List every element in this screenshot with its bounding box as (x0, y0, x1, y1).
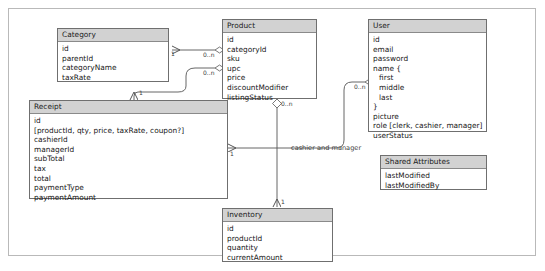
field-receipt-total: total (34, 174, 227, 184)
field-shared-lastmodifiedby: lastModifiedBy (385, 181, 486, 191)
field-user-role: role [clerk, cashier, manager] (373, 121, 486, 131)
entity-shared-attributes[interactable]: Shared Attributes lastModified lastModif… (380, 155, 487, 190)
entity-shared-attributes-title: Shared Attributes (381, 156, 486, 169)
field-receipt-paymentamount: paymentAmount (34, 193, 227, 203)
entity-user-title: User (369, 20, 486, 33)
entity-user[interactable]: User id email password name { first midd… (368, 19, 487, 132)
multiplicity-receipt-right: 1 (230, 150, 234, 157)
entity-category-fields: id parentId categoryName taxRate (58, 42, 168, 85)
entity-product[interactable]: Product id categoryId sku upc price disc… (222, 19, 317, 99)
field-user-last: last (373, 93, 486, 103)
field-user-email: email (373, 45, 486, 55)
relationship-label-cashier-and-manager: cashier and manager (291, 144, 361, 152)
field-receipt-cashierid: cashierId (34, 135, 227, 145)
entity-product-fields: id categoryId sku upc price discountModi… (223, 33, 316, 105)
entity-product-title: Product (223, 20, 316, 33)
relationship-product-inventory (273, 99, 282, 207)
field-product-upc: upc (227, 64, 316, 74)
field-shared-lastmodified: lastModified (385, 171, 486, 181)
field-product-categoryid: categoryId (227, 45, 316, 55)
entity-receipt-title: Receipt (30, 101, 227, 114)
relationship-product-category (172, 47, 224, 53)
field-user-first: first (373, 73, 486, 83)
field-receipt-tax: tax (34, 164, 227, 174)
entity-inventory-fields: id productId quantity currentAmount (223, 222, 332, 265)
field-inventory-quantity: quantity (227, 243, 332, 253)
multiplicity-category-side: 1 (171, 50, 175, 57)
field-category-taxrate: taxRate (62, 73, 168, 83)
diagram-canvas: Category id parentId categoryName taxRat… (0, 0, 545, 271)
multiplicity-product-to-inventory: 0..n (281, 100, 292, 107)
field-category-parentid: parentId (62, 54, 168, 64)
field-user-name-open: name { (373, 64, 486, 74)
field-product-sku: sku (227, 54, 316, 64)
field-product-discountmodifier: discountModifier (227, 83, 316, 93)
field-receipt-managerid: managerId (34, 145, 227, 155)
entity-receipt[interactable]: Receipt id [productId, qty, price, taxRa… (29, 100, 228, 199)
entity-inventory[interactable]: Inventory id productId quantity currentA… (222, 208, 333, 262)
multiplicity-inventory-side: 1 (281, 198, 285, 205)
field-category-id: id (62, 44, 168, 54)
multiplicity-receipt-top: 1 (139, 89, 143, 96)
field-inventory-id: id (227, 224, 332, 234)
multiplicity-product-to-category: 0..n (203, 51, 214, 58)
field-product-id: id (227, 35, 316, 45)
entity-inventory-title: Inventory (223, 209, 332, 222)
entity-receipt-fields: id [productId, qty, price, taxRate, coup… (30, 114, 227, 205)
field-receipt-id: id (34, 116, 227, 126)
field-user-id: id (373, 35, 486, 45)
field-receipt-paymenttype: paymentType (34, 183, 227, 193)
field-product-price: price (227, 73, 316, 83)
field-user-middle: middle (373, 83, 486, 93)
entity-user-fields: id email password name { first middle la… (369, 33, 486, 144)
field-user-picture: picture (373, 112, 486, 122)
field-user-name-close: } (373, 102, 486, 112)
multiplicity-product-to-receipt: 0..n (203, 69, 214, 76)
field-product-listingstatus: listingStatus (227, 93, 316, 103)
field-receipt-subtotal: subTotal (34, 154, 227, 164)
field-user-userstatus: userStatus (373, 131, 486, 141)
field-user-password: password (373, 54, 486, 64)
field-category-categoryname: categoryName (62, 63, 168, 73)
entity-category-title: Category (58, 29, 168, 42)
entity-shared-attributes-fields: lastModified lastModifiedBy (381, 169, 486, 193)
multiplicity-user-side: 0..n (354, 83, 365, 90)
field-inventory-currentamount: currentAmount (227, 253, 332, 263)
field-receipt-lineitems: [productId, qty, price, taxRate, coupon?… (34, 126, 227, 136)
entity-category[interactable]: Category id parentId categoryName taxRat… (57, 28, 169, 82)
field-inventory-productid: productId (227, 234, 332, 244)
